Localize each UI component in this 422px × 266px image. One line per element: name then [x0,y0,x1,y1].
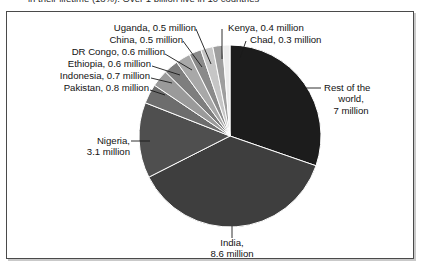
pie-slices [139,45,321,227]
callout-nigeria-line1: Nigeria, [36,135,130,146]
callout-india-line1: India, [190,237,274,248]
pie-chart-figure: in their lifetime (18%). Over 1 billion … [0,0,422,266]
callout-india: India, 8.6 million [190,237,274,260]
callout-nigeria-line2: 3.1 million [36,146,130,157]
callout-kenya-label: Kenya, 0.4 million [228,22,304,33]
callout-ethiopia: Ethiopia, 0.6 million [20,58,151,69]
callout-china-label: China, 0.5 million [109,34,183,45]
callout-chad: Chad, 0.3 million [250,34,321,45]
callout-uganda: Uganda, 0.5 million [38,22,196,33]
callout-india-line2: 8.6 million [190,248,274,259]
callout-rest-of-world: Rest of the world, 7 million [324,82,378,116]
callout-rest-line3: 7 million [324,105,378,116]
callout-dr-congo: DR Congo, 0.6 million [20,46,165,57]
callout-pakistan-label: Pakistan, 0.8 million [64,82,149,93]
callout-ethiopia-label: Ethiopia, 0.6 million [68,58,151,69]
callout-indonesia: Indonesia, 0.7 million [14,70,150,81]
callout-dr-congo-label: DR Congo, 0.6 million [72,46,165,57]
callout-pakistan: Pakistan, 0.8 million [14,82,149,93]
callout-kenya: Kenya, 0.4 million [228,22,304,33]
callout-uganda-label: Uganda, 0.5 million [114,22,196,33]
callout-rest-line2: world, [324,93,378,104]
callout-chad-label: Chad, 0.3 million [250,34,321,45]
callout-indonesia-label: Indonesia, 0.7 million [60,70,150,81]
callout-rest-line1: Rest of the [324,82,378,93]
callout-nigeria: Nigeria, 3.1 million [36,135,130,158]
callout-china: China, 0.5 million [38,34,183,45]
